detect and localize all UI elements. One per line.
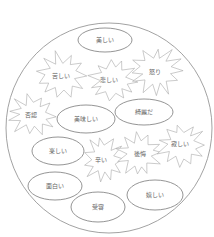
node-kireida: 綺麗だ <box>115 99 173 125</box>
node-label: 美しい <box>96 36 114 44</box>
node-label: 辛い <box>95 156 107 164</box>
emotion-diagram: 苦しい 悲しい 怒り 否認 辛い 後悔 寂しい 美しい 美味しい 綺麗だ 楽しい <box>0 0 214 237</box>
node-label: 怒り <box>149 68 161 76</box>
node-omoshiroi: 面白い <box>28 172 82 200</box>
node-label: 美味しい <box>74 115 98 123</box>
node-oishii: 美味しい <box>57 105 115 133</box>
node-label: 受容 <box>92 203 104 211</box>
node-label: 後悔 <box>134 150 146 158</box>
node-ureshii: 嬉しい <box>127 180 183 210</box>
node-label: 否認 <box>25 111 37 119</box>
node-label: 嬉しい <box>146 191 164 199</box>
node-label: 寂しい <box>171 140 189 148</box>
node-label: 綺麗だ <box>135 108 153 116</box>
node-juyou: 受容 <box>71 192 125 222</box>
node-label: 楽しい <box>49 147 67 155</box>
node-label: 苦しい <box>52 72 70 80</box>
node-label: 悲しい <box>100 76 118 83</box>
node-tanoshii: 楽しい <box>32 137 84 165</box>
node-utsukushii: 美しい <box>78 28 132 52</box>
node-label: 面白い <box>46 182 64 190</box>
